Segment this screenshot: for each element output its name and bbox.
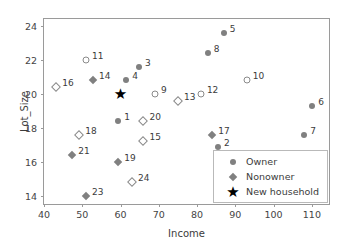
owner-point-marker (205, 50, 211, 56)
point-label: 7 (310, 126, 316, 136)
legend-item-label: Owner (246, 156, 277, 167)
point-label: 20 (149, 112, 160, 122)
x-tick-label: 110 (303, 209, 321, 220)
nonowner-open-point-marker (76, 131, 83, 138)
y-tick-mark (41, 26, 44, 27)
point-label: 14 (99, 71, 110, 81)
owner-point-marker (221, 30, 227, 36)
legend-item-new-household[interactable]: ★New household (220, 185, 319, 198)
point-label: 1 (124, 112, 130, 122)
x-tick-mark (159, 204, 160, 207)
x-tick-label: 100 (265, 209, 283, 220)
y-tick-mark (41, 128, 44, 129)
x-tick-label: 90 (229, 209, 241, 220)
nonowner-point-marker (69, 152, 75, 158)
nonowner-point-marker (209, 132, 215, 138)
nonowner-open-point-marker (140, 118, 147, 125)
point-label: 17 (218, 126, 229, 136)
owner-point-marker (123, 77, 129, 83)
point-label: 4 (132, 71, 138, 81)
y-tick-label: 18 (25, 122, 37, 133)
x-tick-mark (235, 204, 236, 207)
chart-legend: OwnerNonowner★New household (213, 150, 328, 203)
x-tick-mark (82, 204, 83, 207)
diamond-icon (220, 174, 246, 180)
x-tick-mark (197, 204, 198, 207)
point-label: 10 (253, 71, 264, 81)
point-label: 11 (92, 51, 103, 61)
point-label: 23 (92, 187, 103, 197)
x-axis-label: Income (43, 228, 330, 239)
x-tick-label: 50 (76, 209, 88, 220)
nonowner-open-point-marker (53, 84, 60, 91)
point-label: 9 (161, 85, 167, 95)
x-tick-mark (121, 204, 122, 207)
point-label: 24 (138, 173, 149, 183)
point-label: 16 (62, 78, 73, 88)
new-household-star-marker: ★ (114, 90, 127, 98)
y-tick-mark (41, 162, 44, 163)
owner-point-marker (136, 64, 142, 70)
nonowner-point-marker (115, 159, 121, 165)
y-tick-label: 24 (25, 20, 37, 31)
plot-area: 405060708090100110141618202224 123456789… (43, 18, 330, 205)
scatter-plot-figure: Lot_Size 405060708090100110141618202224 … (0, 0, 344, 247)
point-label: 13 (184, 92, 195, 102)
legend-item-label: New household (246, 186, 319, 197)
y-tick-label: 20 (25, 88, 37, 99)
x-tick-mark (44, 204, 45, 207)
x-tick-mark (274, 204, 275, 207)
x-tick-mark (312, 204, 313, 207)
star-icon: ★ (220, 188, 246, 196)
nonowner-point-marker (90, 77, 96, 83)
point-label: 2 (224, 138, 230, 148)
point-label: 12 (207, 85, 218, 95)
legend-item-label: Nonowner (246, 171, 294, 182)
y-tick-mark (41, 94, 44, 95)
point-label: 21 (78, 146, 89, 156)
y-tick-label: 16 (25, 156, 37, 167)
owner-open-point-marker (151, 90, 158, 97)
x-tick-label: 80 (191, 209, 203, 220)
legend-item-nonowner[interactable]: Nonowner (220, 170, 319, 183)
nonowner-open-point-marker (174, 97, 181, 104)
owner-point-marker (309, 103, 315, 109)
owner-open-point-marker (197, 90, 204, 97)
point-label: 6 (318, 97, 324, 107)
point-label: 15 (149, 132, 160, 142)
point-label: 8 (214, 44, 220, 54)
point-label: 5 (230, 24, 236, 34)
y-tick-mark (41, 196, 44, 197)
x-tick-label: 70 (153, 209, 165, 220)
point-label: 19 (124, 153, 135, 163)
owner-point-marker (301, 132, 307, 138)
y-tick-label: 22 (25, 54, 37, 65)
owner-open-point-marker (83, 56, 90, 63)
x-tick-label: 40 (38, 209, 50, 220)
point-label: 18 (85, 126, 96, 136)
nonowner-open-point-marker (140, 138, 147, 145)
point-label: 3 (145, 58, 151, 68)
owner-open-point-marker (243, 77, 250, 84)
nonowner-open-point-marker (129, 179, 136, 186)
circle-icon (220, 159, 246, 165)
y-tick-mark (41, 60, 44, 61)
x-tick-label: 60 (114, 209, 126, 220)
y-axis-label: Lot_Size (4, 18, 45, 205)
nonowner-point-marker (83, 193, 89, 199)
y-tick-label: 14 (25, 190, 37, 201)
owner-point-marker (115, 118, 121, 124)
legend-item-owner[interactable]: Owner (220, 155, 319, 168)
